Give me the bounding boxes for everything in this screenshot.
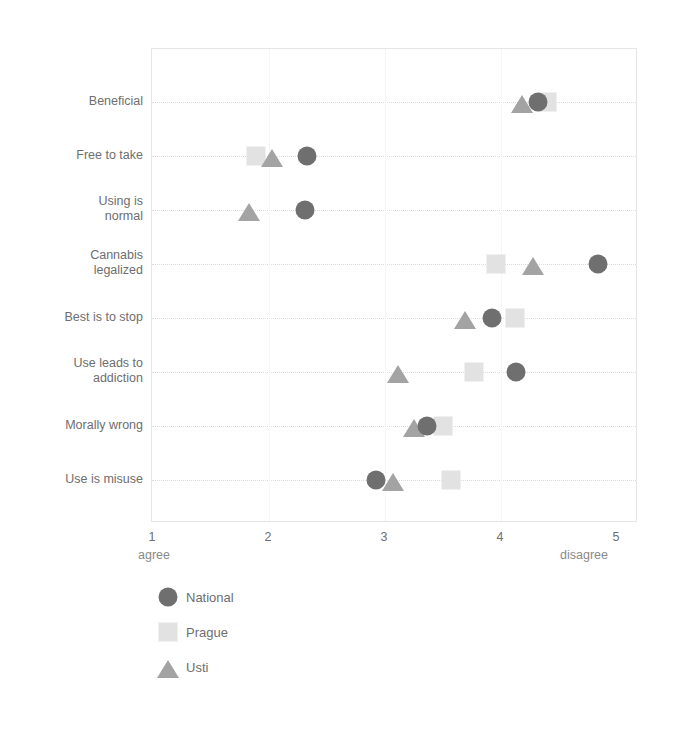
legend-marker-square	[159, 623, 178, 642]
legend: NationalPragueUsti	[150, 582, 450, 702]
point-usti-4	[454, 311, 476, 329]
point-usti-7	[382, 473, 404, 491]
x-axis-low-label: agree	[138, 548, 170, 562]
category-label: Free to take	[3, 148, 143, 163]
category-label: Cannabis legalized	[3, 248, 143, 278]
x-axis-tick-label: 5	[613, 530, 620, 544]
legend-item-usti[interactable]: Usti	[150, 652, 450, 682]
gridline-vertical	[269, 49, 270, 521]
point-national-4	[482, 309, 501, 328]
point-prague-7	[442, 471, 461, 490]
legend-label: National	[186, 590, 234, 605]
gridline-vertical	[385, 49, 386, 521]
point-national-7	[366, 471, 385, 490]
point-prague-5	[465, 363, 484, 382]
plot-area	[151, 48, 637, 522]
category-label: Use leads to addiction	[3, 356, 143, 386]
category-label: Morally wrong	[3, 418, 143, 433]
point-national-5	[507, 363, 526, 382]
x-axis-tick-label: 3	[381, 530, 388, 544]
gridline-horizontal	[152, 426, 636, 427]
point-usti-2	[238, 203, 260, 221]
point-prague-4	[505, 309, 524, 328]
legend-item-national[interactable]: National	[150, 582, 450, 612]
category-label: Best is to stop	[3, 310, 143, 325]
category-axis-labels: BeneficialFree to takeUsing is normalCan…	[0, 48, 143, 522]
gridline-vertical	[501, 49, 502, 521]
point-usti-1	[261, 149, 283, 167]
x-axis-high-label: disagree	[560, 548, 608, 562]
category-label: Use is misuse	[3, 472, 143, 487]
gridline-horizontal	[152, 210, 636, 211]
legend-marker-circle	[159, 588, 178, 607]
attitudes-dot-chart: BeneficialFree to takeUsing is normalCan…	[0, 0, 680, 744]
x-axis-tick-label: 1	[149, 530, 156, 544]
point-national-1	[298, 147, 317, 166]
gridline-horizontal	[152, 264, 636, 265]
gridline-horizontal	[152, 102, 636, 103]
point-national-3	[589, 255, 608, 274]
category-label: Using is normal	[3, 194, 143, 224]
legend-marker-triangle	[157, 660, 179, 678]
x-axis-tick-label: 2	[265, 530, 272, 544]
x-axis: agree disagree 12345	[0, 522, 680, 582]
point-usti-5	[387, 365, 409, 383]
legend-label: Usti	[186, 660, 208, 675]
point-national-0	[529, 93, 548, 112]
point-prague-6	[434, 417, 453, 436]
gridline-horizontal	[152, 156, 636, 157]
category-label: Beneficial	[3, 94, 143, 109]
legend-item-prague[interactable]: Prague	[150, 617, 450, 647]
gridline-horizontal	[152, 318, 636, 319]
point-national-2	[295, 201, 314, 220]
point-prague-3	[487, 255, 506, 274]
point-usti-3	[522, 257, 544, 275]
x-axis-tick-label: 4	[497, 530, 504, 544]
point-national-6	[417, 417, 436, 436]
legend-label: Prague	[186, 625, 228, 640]
